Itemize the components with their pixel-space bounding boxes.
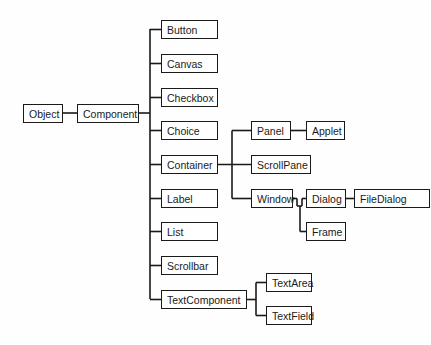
- node-textcomponent[interactable]: TextComponent: [161, 290, 247, 309]
- node-filedialog-label: FileDialog: [360, 193, 407, 205]
- node-component-label: Component: [83, 108, 137, 120]
- node-window[interactable]: Window: [251, 189, 293, 208]
- node-scrollbar[interactable]: Scrollbar: [161, 256, 218, 275]
- node-object[interactable]: Object: [23, 104, 63, 123]
- node-applet-label: Applet: [312, 125, 342, 137]
- node-scrollpane[interactable]: ScrollPane: [251, 155, 311, 174]
- node-scrollpane-label: ScrollPane: [257, 159, 308, 171]
- node-component[interactable]: Component: [77, 104, 139, 123]
- node-applet[interactable]: Applet: [306, 121, 345, 140]
- node-frame-label: Frame: [312, 226, 342, 238]
- node-button-label: Button: [167, 24, 197, 36]
- node-panel-label: Panel: [257, 125, 284, 137]
- node-textfield[interactable]: TextField: [266, 306, 312, 325]
- node-canvas-label: Canvas: [167, 58, 203, 70]
- node-label[interactable]: Label: [161, 189, 218, 208]
- node-scrollbar-label: Scrollbar: [167, 260, 208, 272]
- node-textcomponent-label: TextComponent: [167, 294, 241, 306]
- node-object-label: Object: [29, 108, 59, 120]
- node-panel[interactable]: Panel: [251, 121, 291, 140]
- node-choice[interactable]: Choice: [161, 121, 218, 140]
- node-list[interactable]: List: [161, 222, 218, 241]
- node-container-label: Container: [167, 159, 213, 171]
- node-checkbox[interactable]: Checkbox: [161, 88, 218, 107]
- node-button[interactable]: Button: [161, 20, 218, 39]
- node-textarea-label: TextArea: [272, 277, 313, 289]
- node-textarea[interactable]: TextArea: [266, 273, 312, 292]
- node-dialog[interactable]: Dialog: [306, 189, 346, 208]
- node-frame[interactable]: Frame: [306, 222, 346, 241]
- node-list-label: List: [167, 226, 183, 238]
- node-label-label: Label: [167, 193, 193, 205]
- node-container[interactable]: Container: [161, 155, 218, 174]
- node-canvas[interactable]: Canvas: [161, 54, 218, 73]
- node-dialog-label: Dialog: [312, 193, 342, 205]
- node-checkbox-label: Checkbox: [167, 92, 214, 104]
- node-choice-label: Choice: [167, 125, 200, 137]
- class-hierarchy-diagram: Object Component Button Canvas Checkbox …: [0, 0, 431, 345]
- node-textfield-label: TextField: [272, 310, 314, 322]
- node-window-label: Window: [257, 193, 294, 205]
- node-filedialog[interactable]: FileDialog: [354, 189, 430, 208]
